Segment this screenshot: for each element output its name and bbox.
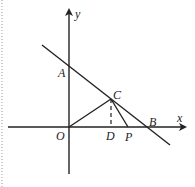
coordinate-diagram: y x A C B O D P	[0, 0, 195, 187]
segment-oc	[69, 99, 111, 127]
point-d-label: D	[105, 129, 115, 143]
segment-cp	[111, 99, 128, 127]
point-c-label: C	[113, 88, 122, 102]
point-p-label: P	[124, 130, 133, 144]
diagram: y x A C B O D P	[0, 0, 195, 187]
point-b-label: B	[149, 115, 157, 129]
point-o-label: O	[56, 129, 65, 143]
point-a-label: A	[57, 66, 66, 80]
x-axis-label: x	[176, 111, 183, 125]
y-axis-label: y	[74, 7, 81, 21]
